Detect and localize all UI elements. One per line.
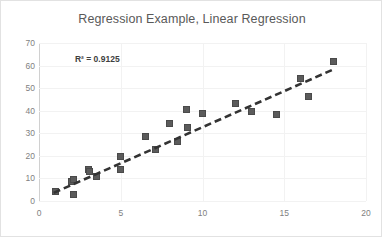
chart-title: Regression Example, Linear Regression [1, 12, 382, 26]
scatter-point [52, 188, 59, 195]
gridline-x [203, 43, 204, 201]
scatter-point [93, 173, 100, 180]
x-axis-tick-labels: 05101520 [1, 209, 382, 223]
y-tick-label: 20 [9, 152, 35, 161]
x-tick-label: 10 [188, 209, 218, 218]
scatter-point [248, 108, 255, 115]
scatter-point [232, 100, 239, 107]
y-tick-label: 10 [9, 174, 35, 183]
scatter-point [183, 106, 190, 113]
y-tick-label: 40 [9, 107, 35, 116]
scatter-point [117, 153, 124, 160]
x-tick-label: 5 [106, 209, 136, 218]
x-tick-label: 20 [351, 209, 381, 218]
chart-container: Regression Example, Linear Regression 01… [0, 0, 382, 237]
scatter-point [70, 191, 77, 198]
scatter-point [305, 93, 312, 100]
x-tick-label: 0 [24, 209, 54, 218]
scatter-point [174, 138, 181, 145]
scatter-point [70, 176, 77, 183]
scatter-point [297, 75, 304, 82]
scatter-point [199, 110, 206, 117]
y-tick-label: 60 [9, 62, 35, 71]
scatter-point [330, 58, 337, 65]
y-tick-label: 70 [9, 39, 35, 48]
y-axis-tick-labels: 010203040506070 [5, 1, 35, 237]
gridline-y [39, 201, 366, 202]
scatter-point [184, 124, 191, 131]
y-tick-label: 30 [9, 129, 35, 138]
scatter-point [142, 133, 149, 140]
scatter-point [273, 111, 280, 118]
plot-area [39, 43, 366, 201]
x-tick-label: 15 [269, 209, 299, 218]
y-tick-label: 50 [9, 84, 35, 93]
scatter-point [166, 120, 173, 127]
scatter-point [117, 166, 124, 173]
gridline-x [366, 43, 367, 201]
r-squared-annotation: R² = 0.9125 [75, 54, 120, 64]
gridline-x [121, 43, 122, 201]
gridline-x [284, 43, 285, 201]
y-tick-label: 0 [9, 197, 35, 206]
scatter-point [152, 146, 159, 153]
